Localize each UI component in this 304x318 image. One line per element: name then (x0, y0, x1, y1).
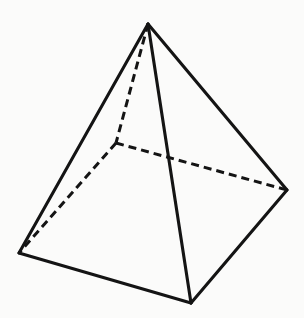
pyramid-diagram (0, 0, 304, 318)
pyramid-figure-container (0, 0, 304, 318)
